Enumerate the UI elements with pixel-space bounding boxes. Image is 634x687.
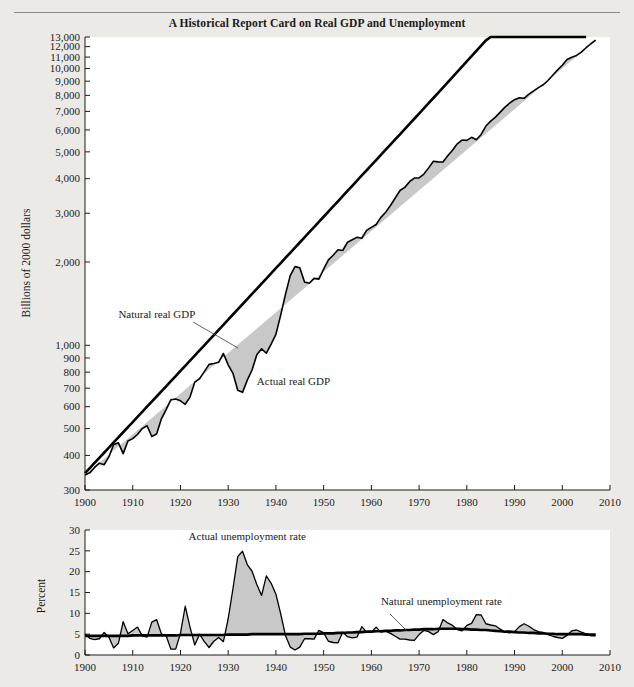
chart-annotation: Actual unemployment rate: [189, 530, 306, 542]
y-tick-label: 500: [64, 422, 81, 434]
x-tick-label: 2010: [599, 496, 622, 508]
y-tick-label: 5,000: [55, 146, 80, 158]
x-tick-label: 1920: [169, 496, 192, 508]
unemployment-chart-panel: 051015202530 190019101920193019401950196…: [0, 518, 634, 687]
chart-annotation: Natural unemployment rate: [381, 595, 502, 607]
y-tick-label: 10: [69, 607, 81, 619]
x-tick-label: 1930: [217, 661, 240, 673]
header-divider: [14, 12, 620, 13]
y-tick-label: 6,000: [55, 124, 80, 136]
y-tick-label: 8,000: [55, 89, 80, 101]
x-tick-label: 1990: [504, 661, 527, 673]
gdp-y-axis-title: Billions of 2000 dollars: [20, 208, 32, 317]
gdp-chart-panel: 3004005006007008009001,0002,0003,0004,00…: [0, 28, 634, 518]
y-tick-label: 10,000: [50, 62, 81, 74]
x-tick-label: 1950: [313, 661, 336, 673]
x-tick-label: 1980: [456, 496, 479, 508]
x-tick-label: 1920: [169, 661, 192, 673]
y-tick-label: 7,000: [55, 105, 80, 117]
y-tick-label: 30: [69, 524, 81, 536]
figure-container: A Historical Report Card on Real GDP and…: [0, 0, 634, 687]
x-tick-label: 1900: [74, 496, 97, 508]
y-tick-label: 400: [64, 449, 81, 461]
y-tick-label: 11,000: [50, 51, 80, 63]
x-tick-label: 1930: [217, 496, 240, 508]
x-tick-label: 1940: [265, 496, 288, 508]
unemployment-y-tick-labels: 051015202530: [69, 524, 81, 661]
y-tick-label: 1,000: [55, 339, 80, 351]
y-tick-label: 600: [64, 400, 81, 412]
y-tick-label: 20: [69, 565, 81, 577]
gdp-x-tick-labels: 1900191019201930194019501960197019801990…: [74, 496, 622, 508]
x-tick-label: 1970: [408, 661, 431, 673]
x-tick-label: 1950: [313, 496, 336, 508]
x-tick-label: 1980: [456, 661, 479, 673]
y-tick-label: 800: [64, 366, 81, 378]
x-tick-label: 1900: [74, 661, 97, 673]
x-tick-label: 2000: [551, 496, 574, 508]
y-tick-label: 3,000: [55, 207, 80, 219]
y-tick-label: 4,000: [55, 172, 80, 184]
x-tick-label: 1940: [265, 661, 288, 673]
y-tick-label: 300: [64, 484, 81, 496]
y-tick-label: 0: [75, 649, 81, 661]
x-tick-label: 1960: [360, 496, 383, 508]
y-tick-label: 900: [64, 352, 81, 364]
x-tick-label: 1970: [408, 496, 431, 508]
y-tick-label: 700: [64, 382, 81, 394]
y-tick-label: 15: [69, 586, 81, 598]
x-tick-label: 1910: [122, 496, 145, 508]
gdp-y-tick-labels: 3004005006007008009001,0002,0003,0004,00…: [50, 31, 81, 496]
x-tick-label: 2000: [551, 661, 574, 673]
y-tick-label: 9,000: [55, 75, 80, 87]
x-tick-label: 1910: [122, 661, 145, 673]
x-tick-label: 1990: [504, 496, 527, 508]
x-tick-label: 2010: [599, 661, 622, 673]
x-tick-label: 1960: [360, 661, 383, 673]
y-tick-label: 25: [69, 545, 81, 557]
gdp-plot-background: [85, 37, 610, 490]
unemployment-y-axis-title: Percent: [35, 578, 47, 613]
y-tick-label: 13,000: [50, 31, 81, 43]
gdp-plot-area: 3004005006007008009001,0002,0003,0004,00…: [20, 31, 622, 508]
chart-annotation: Actual real GDP: [257, 375, 330, 387]
y-tick-label: 2,000: [55, 256, 80, 268]
chart-annotation: Natural real GDP: [118, 308, 195, 320]
unemployment-plot-area: 051015202530 190019101920193019401950196…: [35, 524, 622, 673]
y-tick-label: 5: [75, 628, 81, 640]
unemployment-x-tick-labels: 1900191019201930194019501960197019801990…: [74, 661, 622, 673]
